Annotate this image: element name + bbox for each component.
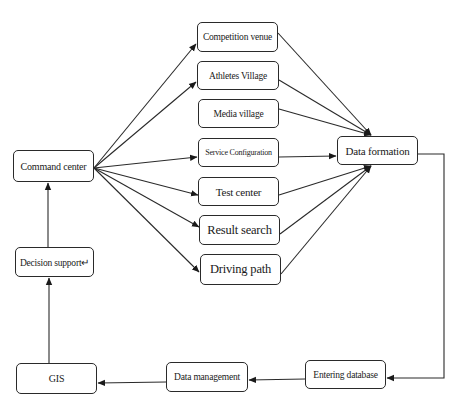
node-label: Driving path	[210, 262, 271, 277]
node-entering-database: Entering database	[305, 360, 386, 389]
node-label: Service Configuration	[205, 148, 272, 157]
node-label: Result search	[207, 223, 271, 238]
node-label: Data formation	[345, 145, 409, 157]
node-data-management: Data management	[166, 362, 248, 392]
node-label: Command center	[21, 161, 87, 172]
node-label: Competition venue	[203, 32, 272, 42]
node-command-center: Command center	[13, 150, 94, 182]
node-decision-support: Decision support↵	[15, 247, 94, 277]
node-test-center: Test center	[198, 177, 279, 206]
node-media-village: Media village	[198, 99, 279, 128]
node-label: Media village	[214, 109, 264, 119]
node-gis: GIS	[16, 363, 97, 394]
node-athletes-village: Athletes Village	[197, 61, 279, 90]
node-label: Data management	[174, 372, 240, 382]
node-result-search: Result search	[199, 215, 280, 245]
node-competition-venue: Competition venue	[197, 22, 278, 52]
node-label: Test center	[216, 186, 262, 198]
node-label: Decision support↵	[20, 257, 89, 268]
node-driving-path: Driving path	[200, 254, 281, 285]
node-label: GIS	[49, 373, 65, 384]
node-data-formation: Data formation	[337, 136, 418, 165]
node-label: Athletes Village	[209, 71, 267, 81]
node-label: Entering database	[313, 370, 377, 380]
node-service-configuration: Service Configuration	[198, 138, 279, 167]
